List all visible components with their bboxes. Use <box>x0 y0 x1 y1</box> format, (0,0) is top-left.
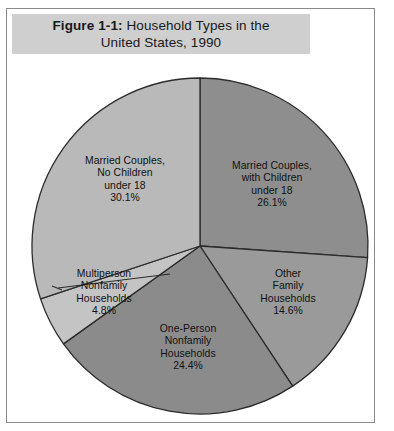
figure-page: Figure 1-1: Household Types in theUnited… <box>0 0 394 431</box>
slice-label-one-person-nonfamily: One-Person Nonfamily Households 24.4% <box>128 323 248 373</box>
slice-label-other-family: Other Family Households 14.6% <box>246 268 330 318</box>
slice-label-married-with-children: Married Couples, with Children under 18 … <box>208 160 336 210</box>
slice-label-multiperson-nonfamily: Multiperson Nonfamily Households 4.8% <box>52 268 156 318</box>
slice-label-married-no-children: Married Couples, No Children under 18 30… <box>56 155 194 205</box>
